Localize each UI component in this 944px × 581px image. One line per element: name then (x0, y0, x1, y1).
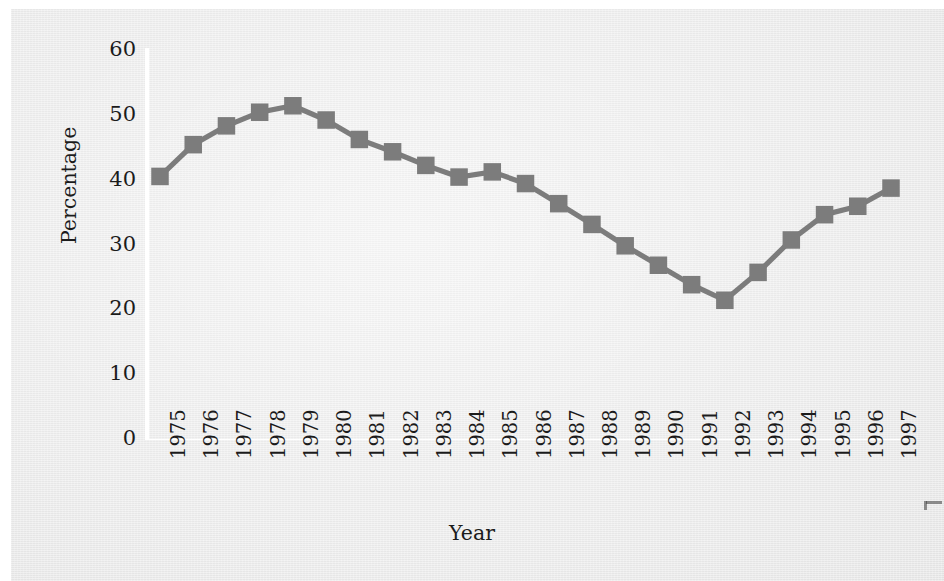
x-axis-tick-label: 1987 (568, 409, 588, 459)
x-axis-tick-label: 1988 (601, 409, 621, 459)
x-axis-tick-label: 1981 (368, 409, 388, 459)
x-axis-tick-label: 1982 (402, 409, 422, 459)
x-axis-tick-label: 1992 (734, 409, 754, 459)
x-axis-tick-labels: 1975197619771978197919801981198219831984… (0, 0, 944, 581)
x-axis-tick-label: 1980 (335, 409, 355, 459)
x-axis-tick-label: 1976 (202, 409, 222, 459)
x-axis-tick-label: 1997 (900, 409, 920, 459)
x-axis-tick-label: 1979 (302, 409, 322, 459)
y-axis-title: Percentage (57, 127, 81, 244)
x-axis-tick-label: 1989 (634, 409, 654, 459)
x-axis-tick-label: 1995 (834, 409, 854, 459)
chart-page: 0102030405060 19751976197719781979198019… (0, 0, 944, 581)
x-axis-tick-label: 1991 (701, 409, 721, 459)
x-axis-tick-label: 1996 (867, 409, 887, 459)
x-axis-tick-label: 1983 (435, 409, 455, 459)
x-axis-tick-label: 1977 (235, 409, 255, 459)
x-axis-tick-label: 1975 (169, 409, 189, 459)
scan-artifact-tick (924, 501, 927, 510)
x-axis-tick-label: 1990 (667, 409, 687, 459)
x-axis-tick-label: 1984 (468, 409, 488, 459)
x-axis-tick-label: 1985 (501, 409, 521, 459)
scan-artifact-mark (926, 501, 942, 504)
x-axis-title: Year (0, 521, 944, 545)
x-axis-tick-label: 1994 (800, 409, 820, 459)
x-axis-tick-label: 1993 (767, 409, 787, 459)
x-axis-tick-label: 1978 (269, 409, 289, 459)
x-axis-tick-label: 1986 (535, 409, 555, 459)
